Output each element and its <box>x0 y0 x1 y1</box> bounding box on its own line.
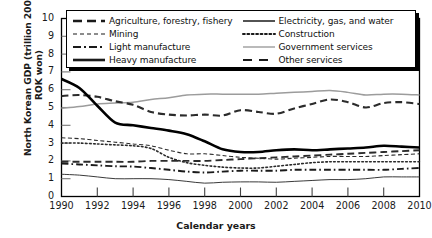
legend-item[interactable]: Mining <box>72 27 242 40</box>
series-line <box>62 174 420 183</box>
series-line <box>62 91 420 109</box>
series-line <box>62 79 420 152</box>
series-line <box>62 164 420 173</box>
solid-gray-key <box>242 41 276 53</box>
dashed-bold-key <box>72 15 106 27</box>
legend-item-label: Construction <box>276 29 335 39</box>
legend-item[interactable]: Heavy manufacture <box>72 53 242 66</box>
legend-column-right: Electricity, gas, and waterConstructionG… <box>242 14 412 66</box>
legend-item-label: Other services <box>276 55 343 65</box>
legend-item[interactable]: Government services <box>242 40 412 53</box>
dash-dot-key <box>72 41 106 53</box>
chart-container: North Korean GDP (trillion 2005 ROK won)… <box>0 0 432 238</box>
series-line <box>62 95 420 116</box>
legend-item-label: Light manufacture <box>106 42 190 52</box>
x-axis-title: Calendar years <box>0 220 432 231</box>
legend-item-label: Mining <box>106 29 138 39</box>
legend-item-label: Government services <box>276 42 373 52</box>
solid-thin-key <box>242 15 276 27</box>
dotted-key <box>242 28 276 40</box>
fine-dashed-key <box>72 28 106 40</box>
legend-item[interactable]: Other services <box>242 53 412 66</box>
chart-legend: Agriculture, forestry, fisheryMiningLigh… <box>66 10 416 68</box>
legend-item-label: Agriculture, forestry, fishery <box>106 16 233 26</box>
solid-bold-key <box>72 54 106 66</box>
legend-item[interactable]: Electricity, gas, and water <box>242 14 412 27</box>
legend-item-label: Electricity, gas, and water <box>276 16 394 26</box>
legend-item[interactable]: Agriculture, forestry, fishery <box>72 14 242 27</box>
legend-column-left: Agriculture, forestry, fisheryMiningLigh… <box>72 14 242 66</box>
legend-item-label: Heavy manufacture <box>106 55 196 65</box>
legend-item[interactable]: Light manufacture <box>72 40 242 53</box>
dashed-wide-key <box>242 54 276 66</box>
legend-item[interactable]: Construction <box>242 27 412 40</box>
